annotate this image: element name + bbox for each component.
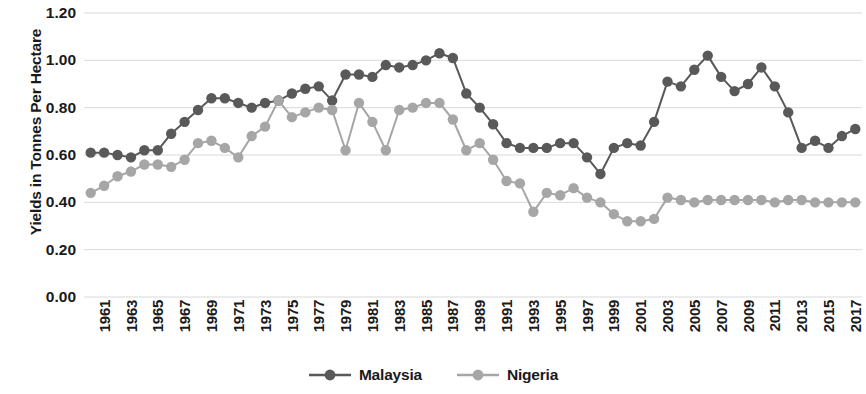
chart-legend: MalaysiaNigeria (0, 366, 866, 384)
data-point (287, 88, 297, 98)
data-point (756, 195, 766, 205)
data-point (407, 60, 417, 70)
data-point (568, 183, 578, 193)
series-malaysia (86, 48, 861, 179)
x-tick-label: 2005 (686, 300, 703, 332)
x-tick-label: 2011 (766, 300, 783, 331)
data-point (743, 195, 753, 205)
data-point (394, 105, 404, 115)
data-point (649, 214, 659, 224)
data-point (609, 209, 619, 219)
data-point (193, 138, 203, 148)
data-point (112, 150, 122, 160)
y-axis-tick-labels: 1.201.000.800.600.400.200.00 (22, 0, 76, 310)
data-point (501, 176, 511, 186)
data-point (273, 95, 283, 105)
x-tick-label: 1987 (444, 300, 461, 332)
data-point (555, 138, 565, 148)
x-tick-label: 2013 (793, 300, 810, 332)
data-point (99, 181, 109, 191)
data-point (810, 136, 820, 146)
x-tick-label: 2007 (713, 300, 730, 332)
x-tick-label: 1997 (579, 300, 596, 332)
data-point (139, 145, 149, 155)
legend-marker-icon (456, 367, 500, 383)
x-tick-label: 2003 (659, 300, 676, 332)
data-point (381, 145, 391, 155)
data-point (179, 155, 189, 165)
data-point (770, 197, 780, 207)
x-tick-label: 1961 (96, 300, 113, 332)
data-point (327, 95, 337, 105)
x-tick-label: 1995 (552, 300, 569, 332)
legend-item-nigeria[interactable]: Nigeria (456, 366, 558, 384)
data-point (488, 119, 498, 129)
data-point (689, 65, 699, 75)
data-point (86, 147, 96, 157)
data-point (796, 195, 806, 205)
data-point (662, 192, 672, 202)
data-point (582, 152, 592, 162)
data-point (515, 178, 525, 188)
data-point (501, 138, 511, 148)
data-point (770, 81, 780, 91)
legend-label: Nigeria (507, 366, 558, 384)
data-point (461, 145, 471, 155)
data-point (837, 197, 847, 207)
x-tick-label: 1999 (605, 300, 622, 332)
x-tick-label: 1969 (203, 300, 220, 332)
data-point (461, 88, 471, 98)
x-tick-label: 1971 (230, 300, 247, 332)
x-tick-label: 1977 (310, 300, 327, 332)
data-point (139, 159, 149, 169)
data-point (475, 138, 485, 148)
data-point (246, 102, 256, 112)
data-point (153, 145, 163, 155)
data-point (689, 197, 699, 207)
data-point (850, 124, 860, 134)
data-point (582, 192, 592, 202)
y-tick-label: 1.20 (22, 4, 76, 22)
x-tick-label: 1967 (176, 300, 193, 332)
data-point (300, 107, 310, 117)
x-tick-label: 2001 (632, 300, 649, 332)
series-layer (86, 48, 861, 226)
data-point (810, 197, 820, 207)
x-axis-tick-labels: 1961196319651967196919711973197519771979… (84, 300, 862, 362)
data-point (112, 171, 122, 181)
data-point (716, 72, 726, 82)
data-point (635, 216, 645, 226)
data-point (850, 197, 860, 207)
data-point (314, 102, 324, 112)
data-point (381, 60, 391, 70)
x-tick-label: 1981 (364, 300, 381, 332)
legend-item-malaysia[interactable]: Malaysia (308, 366, 422, 384)
x-tick-label: 2015 (820, 300, 837, 332)
data-point (568, 138, 578, 148)
data-point (166, 162, 176, 172)
data-point (756, 62, 766, 72)
data-point (166, 129, 176, 139)
data-point (475, 102, 485, 112)
data-point (327, 105, 337, 115)
data-point (662, 76, 672, 86)
data-point (837, 131, 847, 141)
data-point (367, 117, 377, 127)
data-point (340, 69, 350, 79)
data-point (609, 143, 619, 153)
y-tick-label: 0.80 (22, 99, 76, 117)
data-point (823, 197, 833, 207)
series-line (91, 101, 856, 222)
data-point (407, 102, 417, 112)
data-point (703, 195, 713, 205)
data-point (729, 195, 739, 205)
data-point (823, 143, 833, 153)
data-point (260, 98, 270, 108)
data-point (488, 155, 498, 165)
data-point (99, 147, 109, 157)
x-tick-label: 1983 (391, 300, 408, 332)
data-point (354, 69, 364, 79)
y-tick-label: 0.60 (22, 146, 76, 164)
data-point (179, 117, 189, 127)
data-point (340, 145, 350, 155)
